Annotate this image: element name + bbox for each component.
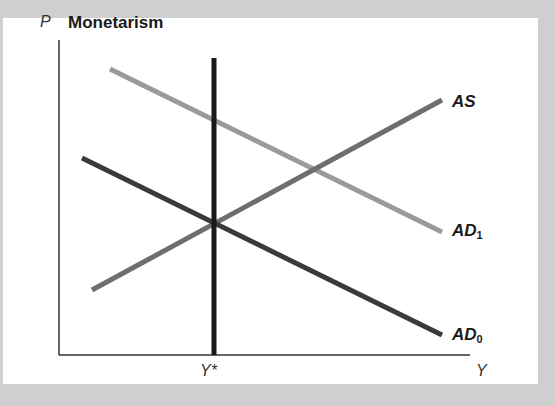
as-curve [92,100,442,290]
ad1-curve [110,69,442,232]
x-axis-label: Y [476,362,487,380]
ad1-label: AD1 [452,221,483,241]
as-label: AS [452,92,476,112]
chart-canvas [0,0,555,406]
y-star-tick-label: Y* [200,362,217,380]
chart-title: Monetarism [68,13,163,33]
y-axis-label: P [40,13,51,31]
ad0-curve [82,158,442,335]
ad0-label: AD0 [452,325,483,345]
